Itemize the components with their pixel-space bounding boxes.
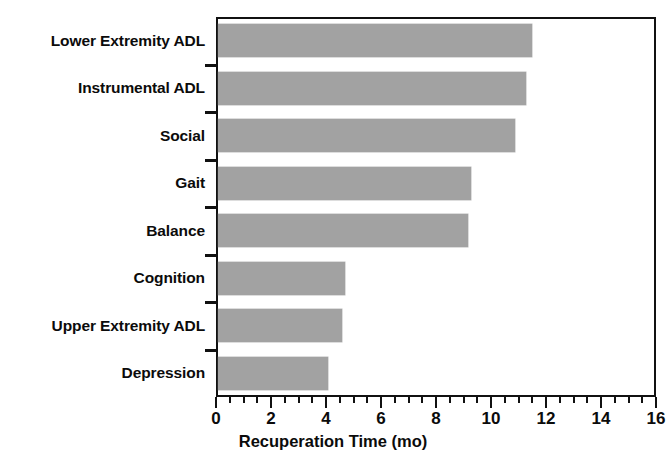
x-axis-major-tick — [380, 397, 383, 408]
x-axis-minor-tick — [311, 397, 313, 403]
category-label: Upper Extremity ADL — [0, 318, 205, 334]
bar — [218, 357, 328, 390]
x-axis-major-tick — [435, 397, 438, 408]
x-axis-minor-tick — [531, 397, 533, 403]
x-axis-minor-tick — [518, 397, 520, 403]
x-axis-major-tick — [655, 397, 658, 408]
category-tick — [205, 349, 217, 352]
x-axis-minor-tick — [243, 397, 245, 403]
x-axis-tick-label: 0 — [211, 410, 220, 427]
category-axis-labels: Lower Extremity ADLInstrumental ADLSocia… — [0, 17, 205, 397]
x-axis-minor-tick — [504, 397, 506, 403]
x-axis-minor-tick — [366, 397, 368, 403]
x-axis-tick-label: 10 — [482, 410, 501, 427]
x-axis-major-tick — [270, 397, 273, 408]
bar — [218, 214, 468, 247]
x-axis-minor-tick — [573, 397, 575, 403]
x-axis-major-tick — [215, 397, 218, 408]
x-axis-minor-tick — [641, 397, 643, 403]
x-axis-tick-label: 6 — [376, 410, 385, 427]
x-axis-minor-tick — [476, 397, 478, 403]
x-axis-minor-tick — [614, 397, 616, 403]
x-axis-minor-tick — [421, 397, 423, 403]
x-axis-tick-label: 16 — [647, 410, 666, 427]
x-axis-minor-tick — [408, 397, 410, 403]
recuperation-time-bar-chart: Lower Extremity ADLInstrumental ADLSocia… — [0, 0, 666, 451]
x-axis-major-tick — [325, 397, 328, 408]
bar — [218, 309, 342, 342]
x-axis-minor-tick — [449, 397, 451, 403]
category-tick — [205, 301, 217, 304]
category-label: Instrumental ADL — [0, 80, 205, 96]
category-label: Depression — [0, 365, 205, 381]
x-axis-minor-tick — [353, 397, 355, 403]
bar — [218, 262, 345, 295]
bar — [218, 24, 532, 57]
x-axis-minor-tick — [559, 397, 561, 403]
x-axis-minor-tick — [339, 397, 341, 403]
category-label: Cognition — [0, 270, 205, 286]
x-axis-minor-tick — [298, 397, 300, 403]
x-axis-tick-label: 2 — [266, 410, 275, 427]
x-axis-major-tick — [490, 397, 493, 408]
x-axis-major-tick — [600, 397, 603, 408]
x-axis-tick-label: 12 — [537, 410, 556, 427]
category-label: Balance — [0, 223, 205, 239]
category-tick — [205, 64, 217, 67]
x-axis-minor-tick — [229, 397, 231, 403]
bars-layer — [218, 19, 656, 395]
category-tick — [205, 111, 217, 114]
x-axis-minor-tick — [394, 397, 396, 403]
x-axis-minor-tick — [284, 397, 286, 403]
category-label: Gait — [0, 175, 205, 191]
x-axis-minor-tick — [256, 397, 258, 403]
bar — [218, 167, 471, 200]
x-axis-title: Recuperation Time (mo) — [0, 433, 666, 450]
category-tick — [205, 254, 217, 257]
bar — [218, 72, 526, 105]
x-axis-minor-tick — [586, 397, 588, 403]
x-axis-minor-tick — [463, 397, 465, 403]
category-label: Lower Extremity ADL — [0, 33, 205, 49]
x-axis-tick-label: 4 — [321, 410, 330, 427]
category-tick — [205, 206, 217, 209]
bar — [218, 119, 515, 152]
x-axis-minor-tick — [628, 397, 630, 403]
x-axis-tick-label: 8 — [431, 410, 440, 427]
category-label: Social — [0, 128, 205, 144]
category-tick — [205, 159, 217, 162]
x-axis-tick-label: 14 — [592, 410, 611, 427]
x-axis-major-tick — [545, 397, 548, 408]
